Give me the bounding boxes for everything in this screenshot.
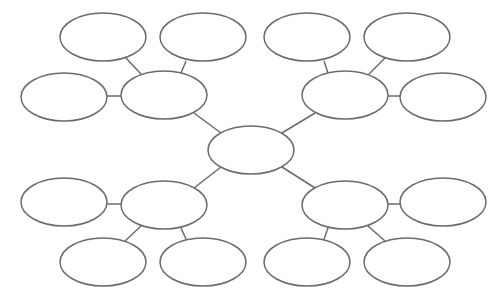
connector-line — [125, 57, 141, 74]
connector-line — [125, 226, 141, 241]
ellipse-shape — [302, 71, 388, 119]
bubble-tl-side — [21, 73, 107, 121]
ellipse-shape — [364, 13, 450, 61]
bubble-hub-top-right — [302, 71, 388, 119]
bubble-tl-top-b — [160, 13, 246, 61]
connector-line — [368, 58, 385, 75]
ellipse-shape — [121, 71, 207, 119]
bubble-tr-top-a — [264, 13, 350, 61]
connector-line — [324, 61, 328, 73]
bubble-hub-bottom-right — [302, 181, 388, 229]
bubble-center — [208, 126, 294, 174]
ellipse-shape — [400, 178, 486, 226]
connector-line — [181, 228, 186, 239]
bubble-bl-bottom-b — [160, 238, 246, 286]
ellipse-shape — [264, 13, 350, 61]
bubble-hub-top-left — [121, 71, 207, 119]
ellipse-shape — [21, 178, 107, 226]
bubble-tr-side — [400, 73, 486, 121]
bubble-br-bottom-b — [364, 238, 450, 286]
bubble-nodes — [21, 13, 486, 286]
connector-line — [368, 226, 385, 241]
ellipse-shape — [364, 238, 450, 286]
bubble-map-diagram — [0, 0, 504, 301]
ellipse-shape — [21, 73, 107, 121]
bubble-hub-bottom-left — [121, 181, 207, 229]
ellipse-shape — [121, 181, 207, 229]
ellipse-shape — [60, 13, 146, 61]
connector-line — [181, 61, 186, 73]
ellipse-shape — [264, 238, 350, 286]
ellipse-shape — [160, 238, 246, 286]
connector-line — [282, 167, 315, 188]
connector-line — [282, 113, 315, 133]
ellipse-shape — [208, 126, 294, 174]
ellipse-shape — [302, 181, 388, 229]
bubble-br-bottom-a — [264, 238, 350, 286]
bubble-tl-top-a — [60, 13, 146, 61]
bubble-bl-bottom-a — [60, 238, 146, 286]
connector-line — [194, 167, 221, 188]
bubble-tr-top-b — [364, 13, 450, 61]
connector-line — [324, 228, 328, 239]
connector-line — [194, 113, 221, 133]
bubble-bl-side — [21, 178, 107, 226]
ellipse-shape — [60, 238, 146, 286]
ellipse-shape — [160, 13, 246, 61]
ellipse-shape — [400, 73, 486, 121]
bubble-br-side — [400, 178, 486, 226]
